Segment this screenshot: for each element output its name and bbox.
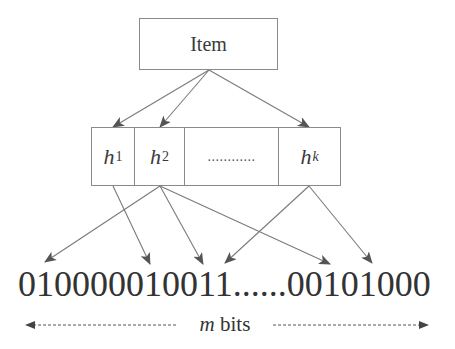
length-label: m bits <box>185 310 265 338</box>
item-box: Item <box>139 18 278 70</box>
bloom-filter-diagram: Item h1 h2 ............ hk 010000010011.… <box>0 0 455 349</box>
arrow-hk-to-bit-2 <box>309 186 372 263</box>
bit-array: 010000010011......00101000 <box>18 262 438 306</box>
h2-subscript: 2 <box>162 149 169 165</box>
arrow-h1-to-bit <box>113 186 150 264</box>
arrow-item-to-h2 <box>160 70 209 127</box>
hk-label: hk <box>279 128 340 185</box>
arrow-hk-to-bit-1 <box>225 186 309 263</box>
arrow-item-to-hk <box>209 70 309 127</box>
h1-label: h1 <box>92 128 134 185</box>
length-unit: bits <box>215 312 251 336</box>
h2-label: h2 <box>135 128 184 185</box>
hk-name: h <box>300 144 311 170</box>
hash-to-bit-arrows <box>45 186 372 264</box>
hash-cell-ellipsis: ............ <box>184 127 279 186</box>
hash-cell-h2: h2 <box>134 127 185 186</box>
hash-cell-hk: hk <box>278 127 341 186</box>
h1-name: h <box>104 144 115 170</box>
item-label: Item <box>140 19 277 69</box>
arrow-item-to-h1 <box>113 70 209 127</box>
h2-name: h <box>150 144 161 170</box>
h1-subscript: 1 <box>116 149 123 165</box>
item-to-hash-arrows <box>113 70 309 127</box>
length-variable: m <box>200 312 215 336</box>
hk-subscript: k <box>312 149 318 165</box>
ellipsis-label: ............ <box>185 128 278 185</box>
arrow-h2-to-bit-3 <box>160 186 330 264</box>
hash-cell-h1: h1 <box>91 127 135 186</box>
arrow-h2-to-bit-1 <box>45 186 160 262</box>
arrow-h2-to-bit-2 <box>160 186 203 264</box>
